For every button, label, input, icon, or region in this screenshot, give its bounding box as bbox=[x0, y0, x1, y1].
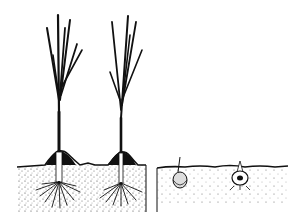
left-soil-section bbox=[17, 151, 146, 212]
illustration bbox=[0, 0, 300, 224]
